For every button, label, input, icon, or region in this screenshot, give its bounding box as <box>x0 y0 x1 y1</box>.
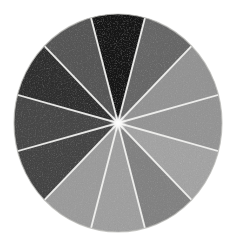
hub-highlight <box>109 114 127 132</box>
color-wheel-figure <box>0 0 236 243</box>
color-wheel-svg <box>0 0 236 243</box>
